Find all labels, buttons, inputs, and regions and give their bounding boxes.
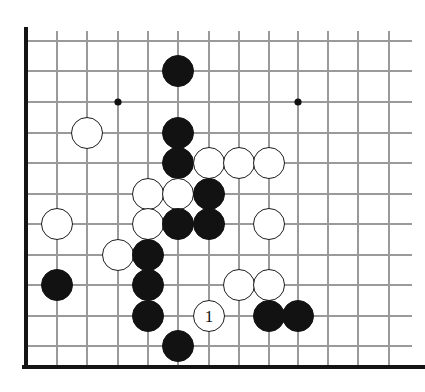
stone-black[interactable] — [193, 178, 225, 210]
stone-black[interactable] — [41, 269, 73, 301]
stone-white[interactable] — [71, 117, 103, 149]
go-board-surface[interactable]: 1 — [0, 0, 425, 392]
stone-white[interactable] — [253, 208, 285, 240]
stone-black[interactable] — [162, 147, 194, 179]
stone-black[interactable] — [162, 55, 194, 87]
stone-black[interactable] — [132, 269, 164, 301]
stone-black[interactable] — [253, 300, 285, 332]
stone-black[interactable] — [162, 330, 194, 362]
go-board-figure: 1 — [0, 0, 425, 392]
stone-white[interactable] — [253, 147, 285, 179]
stone-white[interactable] — [132, 208, 164, 240]
stone-white[interactable] — [41, 208, 73, 240]
stone-white[interactable] — [223, 147, 255, 179]
stone-white-numbered[interactable]: 1 — [193, 300, 225, 332]
stone-black[interactable] — [282, 300, 314, 332]
star-point-upper-left — [114, 98, 121, 105]
stone-black[interactable] — [193, 208, 225, 240]
stone-black[interactable] — [132, 300, 164, 332]
stone-white[interactable] — [162, 178, 194, 210]
stone-black[interactable] — [162, 117, 194, 149]
stone-black[interactable] — [162, 208, 194, 240]
stone-black[interactable] — [132, 239, 164, 271]
stone-move-number: 1 — [194, 301, 224, 331]
stone-white[interactable] — [193, 147, 225, 179]
stone-white[interactable] — [102, 239, 134, 271]
stone-white[interactable] — [132, 178, 164, 210]
star-point-upper-right — [294, 98, 301, 105]
stone-white[interactable] — [223, 269, 255, 301]
stone-white[interactable] — [253, 269, 285, 301]
